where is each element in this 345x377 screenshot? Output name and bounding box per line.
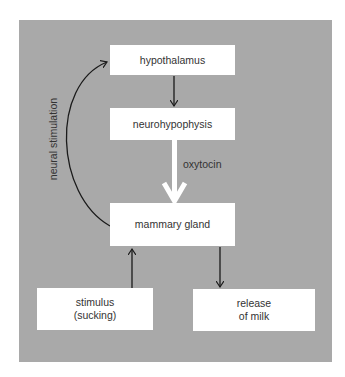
oxytocin-arrow <box>164 140 185 201</box>
node-neurohypophysis: neurohypophysis <box>110 108 235 140</box>
node-release-of-milk: release of milk <box>193 289 315 331</box>
node-stimulus: stimulus (sucking) <box>37 288 153 330</box>
node-mammary-gland: mammary gland <box>110 203 235 246</box>
label-oxytocin: oxytocin <box>183 158 222 170</box>
label-neural-stimulation: neural stimulation <box>47 91 59 187</box>
node-hypothalamus: hypothalamus <box>110 45 235 75</box>
neural-stimulation-curve <box>66 62 110 226</box>
